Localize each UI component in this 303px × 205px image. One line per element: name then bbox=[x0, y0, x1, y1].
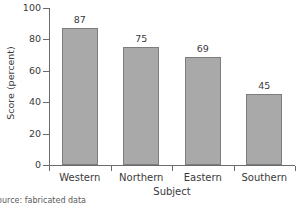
x-axis-tick bbox=[49, 166, 50, 171]
y-axis-tick bbox=[43, 102, 49, 103]
x-axis-tick-label: Northern bbox=[106, 172, 176, 183]
bar-chart: Score (percent) 020406080100 WesternNort… bbox=[0, 0, 303, 205]
y-axis-tick-label: 20 bbox=[0, 129, 41, 139]
y-axis-tick-label: 0 bbox=[0, 160, 41, 170]
y-axis-tick bbox=[43, 8, 49, 9]
x-axis-tick-label: Western bbox=[45, 172, 115, 183]
y-axis-tick bbox=[43, 134, 49, 135]
bar-value-label: 69 bbox=[173, 44, 233, 54]
y-axis-tick bbox=[43, 71, 49, 72]
bar-value-label: 75 bbox=[111, 34, 171, 44]
bar bbox=[62, 28, 98, 165]
x-axis-tick bbox=[111, 166, 112, 171]
x-axis-tick-label: Southern bbox=[229, 172, 299, 183]
y-axis-line bbox=[49, 8, 50, 166]
x-axis-tick-label: Eastern bbox=[168, 172, 238, 183]
x-axis-tick bbox=[295, 166, 296, 171]
bar-value-label: 45 bbox=[234, 81, 294, 91]
source-caption: Source: fabricated data bbox=[0, 196, 86, 205]
bar bbox=[185, 57, 221, 165]
y-axis-tick bbox=[43, 39, 49, 40]
y-axis-tick-label: 40 bbox=[0, 97, 41, 107]
y-axis-title: Score (percent) bbox=[6, 28, 16, 138]
y-axis-tick-label: 80 bbox=[0, 34, 41, 44]
bar bbox=[246, 94, 282, 165]
x-axis-tick bbox=[234, 166, 235, 171]
bar-value-label: 87 bbox=[50, 15, 110, 25]
x-axis-tick bbox=[172, 166, 173, 171]
bar bbox=[123, 47, 159, 165]
y-axis-tick-label: 100 bbox=[0, 3, 41, 13]
y-axis-tick-label: 60 bbox=[0, 66, 41, 76]
